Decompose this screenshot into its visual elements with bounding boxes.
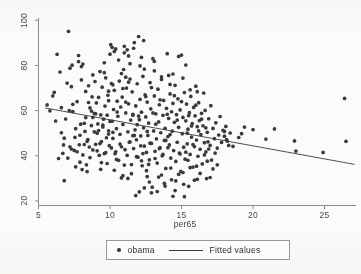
data-point <box>107 129 111 133</box>
data-point <box>150 185 154 189</box>
data-point <box>213 151 217 155</box>
data-point <box>78 133 82 137</box>
data-point <box>343 97 347 101</box>
data-point <box>264 137 268 141</box>
data-point <box>165 112 169 116</box>
data-point <box>134 104 138 108</box>
data-point <box>206 140 210 144</box>
data-point <box>140 55 144 59</box>
data-point <box>153 157 157 161</box>
data-point <box>73 135 77 139</box>
data-point <box>98 142 102 146</box>
data-point <box>189 95 193 99</box>
data-point <box>145 151 149 155</box>
data-point <box>132 41 136 45</box>
data-point <box>166 146 170 150</box>
data-point <box>140 110 144 114</box>
data-point <box>70 85 74 89</box>
data-point <box>207 147 211 151</box>
y-tick-label: 80 <box>19 55 28 75</box>
data-point <box>197 101 201 105</box>
data-point <box>99 168 103 172</box>
data-point <box>205 130 209 134</box>
data-point <box>105 113 109 117</box>
data-point <box>208 144 212 148</box>
data-point <box>83 130 87 134</box>
data-point <box>120 95 124 99</box>
data-point <box>60 131 64 135</box>
data-point <box>146 134 150 138</box>
data-point <box>186 127 190 131</box>
data-point <box>167 116 171 120</box>
data-point <box>184 63 188 67</box>
data-point <box>100 161 104 165</box>
data-point <box>195 164 199 168</box>
data-point <box>165 107 169 111</box>
data-point <box>202 91 206 95</box>
data-point <box>161 114 165 118</box>
data-point <box>175 113 179 117</box>
data-point <box>102 71 106 75</box>
data-point <box>95 149 99 153</box>
data-point <box>127 54 131 58</box>
data-point <box>130 90 134 94</box>
data-point <box>152 69 156 73</box>
data-point <box>138 64 142 68</box>
data-point <box>115 110 119 114</box>
data-point <box>293 139 297 143</box>
data-point <box>155 137 159 141</box>
data-point <box>158 103 162 107</box>
data-point <box>176 97 180 101</box>
scatter-plot <box>0 0 361 274</box>
data-point <box>209 104 213 108</box>
data-point <box>61 151 65 155</box>
data-point <box>74 165 78 169</box>
data-point <box>160 75 164 79</box>
x-axis-title: per65 <box>145 219 225 229</box>
legend-item-obama[interactable]: obama <box>117 241 155 259</box>
data-point <box>215 163 219 167</box>
data-point <box>112 88 116 92</box>
data-point <box>128 77 132 81</box>
data-point <box>152 129 156 133</box>
data-point <box>115 99 119 103</box>
data-point <box>92 130 96 134</box>
data-point <box>185 142 189 146</box>
data-point <box>169 166 173 170</box>
data-point <box>52 90 56 94</box>
data-point <box>150 191 154 195</box>
data-point <box>224 125 228 129</box>
legend-item-fitted-values[interactable]: Fitted values <box>169 241 261 259</box>
data-point <box>223 134 227 138</box>
tick-marks <box>35 20 325 209</box>
data-point <box>200 117 204 121</box>
data-point <box>186 158 190 162</box>
data-point <box>164 167 168 171</box>
data-point <box>182 145 186 149</box>
data-point <box>152 94 156 98</box>
data-point <box>141 74 145 78</box>
data-point <box>211 127 215 131</box>
y-tick-label: 40 <box>19 146 28 166</box>
data-point <box>208 176 212 180</box>
data-point <box>148 141 152 145</box>
data-point <box>141 152 145 156</box>
legend-label-obama: obama <box>128 245 155 255</box>
data-point <box>135 138 139 142</box>
data-point <box>90 95 94 99</box>
data-point <box>122 51 126 55</box>
data-point <box>195 125 199 129</box>
data-point <box>165 52 169 56</box>
data-point <box>55 53 59 57</box>
data-point <box>132 147 136 151</box>
data-point <box>205 159 209 163</box>
data-point <box>131 113 135 117</box>
data-point <box>137 118 141 122</box>
x-tick-label: 10 <box>99 211 121 220</box>
data-point <box>190 124 194 128</box>
data-point <box>162 99 166 103</box>
data-point <box>153 149 157 153</box>
data-point <box>168 83 172 87</box>
data-point <box>215 146 219 150</box>
data-point <box>80 78 84 82</box>
